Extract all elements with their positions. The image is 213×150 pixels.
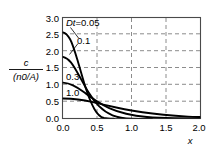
y-axis-ticklabels: 3.0 2.5 2.0 1.5 1.0 0.5 0.0 [46, 13, 59, 124]
xtick-0.5: 0.5 [90, 122, 103, 133]
curve-annotations: Dt=0.05 0.1 0.3 1.0 [66, 17, 100, 98]
vertical-gridlines [97, 18, 166, 118]
y-axis-label-numerator: c [24, 57, 29, 68]
xtick-0.0: 0.0 [56, 122, 69, 133]
y-axis-label: c (n0/A) [9, 57, 43, 82]
x-axis-label: x [187, 135, 194, 146]
annotation-dt-0.05: Dt=0.05 [66, 17, 100, 28]
xtick-2.0: 2.0 [192, 122, 205, 133]
ytick-2.5: 2.5 [46, 29, 59, 40]
ytick-2.0: 2.0 [46, 46, 59, 57]
ytick-0.5: 0.5 [46, 96, 59, 107]
annotation-dt-0.1: 0.1 [77, 35, 90, 46]
ytick-1.5: 1.5 [46, 62, 59, 73]
annotation-dt-0.3: 0.3 [66, 71, 79, 82]
ytick-3.0: 3.0 [46, 13, 59, 24]
ytick-1.0: 1.0 [46, 79, 59, 90]
diffusion-profile-chart: 3.0 2.5 2.0 1.5 1.0 0.5 0.0 0.0 0.5 1.0 … [0, 0, 213, 150]
y-axis-label-denominator: (n0/A) [13, 71, 39, 82]
annotation-dt-1.0: 1.0 [66, 87, 79, 98]
x-axis-ticklabels: 0.0 0.5 1.0 1.5 2.0 [56, 122, 205, 133]
xtick-1.5: 1.5 [159, 122, 172, 133]
xtick-1.0: 1.0 [125, 122, 138, 133]
